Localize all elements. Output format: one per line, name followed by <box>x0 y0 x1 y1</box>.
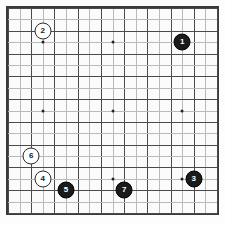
stone-black-1[interactable]: 1 <box>174 34 191 51</box>
star-point <box>181 177 184 180</box>
stone-white-2[interactable]: 2 <box>34 22 51 39</box>
stone-black-5[interactable]: 5 <box>58 182 75 199</box>
grid-line-horizontal <box>8 190 217 191</box>
star-point <box>41 41 44 44</box>
stone-white-4[interactable]: 4 <box>34 170 51 187</box>
stone-white-6[interactable]: 6 <box>23 148 40 165</box>
go-board-container: 1234567 <box>0 0 225 225</box>
grid-line-horizontal <box>8 99 217 100</box>
grid-line-horizontal <box>8 202 217 203</box>
stone-black-3[interactable]: 3 <box>185 170 202 187</box>
stone-move-number: 1 <box>180 38 184 46</box>
stone-black-7[interactable]: 7 <box>116 182 133 199</box>
grid-line-horizontal <box>8 145 217 146</box>
grid-line-horizontal <box>8 65 217 66</box>
stone-move-number: 6 <box>29 152 33 160</box>
star-point <box>111 177 114 180</box>
grid-line-horizontal <box>8 54 217 55</box>
stone-move-number: 4 <box>41 174 45 182</box>
grid-line-horizontal <box>8 167 217 168</box>
grid-line-horizontal <box>8 133 217 134</box>
stone-move-number: 7 <box>122 186 126 194</box>
grid-line-horizontal <box>8 122 217 123</box>
grid-line-horizontal <box>8 8 217 9</box>
go-board[interactable]: 1234567 <box>6 6 219 215</box>
star-point <box>41 109 44 112</box>
grid-line-vertical <box>217 8 218 213</box>
stone-move-number: 3 <box>192 174 196 182</box>
star-point <box>181 109 184 112</box>
grid-line-horizontal <box>8 76 217 77</box>
grid-line-horizontal <box>8 19 217 20</box>
grid-line-horizontal <box>8 213 217 214</box>
stone-move-number: 2 <box>41 26 45 34</box>
stone-move-number: 5 <box>64 186 68 194</box>
grid-line-horizontal <box>8 88 217 89</box>
star-point <box>111 109 114 112</box>
star-point <box>111 41 114 44</box>
